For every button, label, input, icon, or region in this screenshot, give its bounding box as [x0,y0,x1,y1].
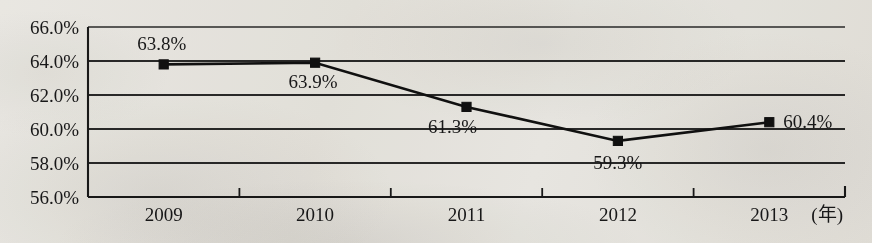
gridline-group [88,27,845,163]
y-axis-tick-label: 58.0% [30,153,79,174]
data-point-label: 63.8% [137,33,186,54]
data-point-marker [613,136,622,145]
x-axis-tick-label: 2012 [599,204,637,225]
y-axis-tick-label: 60.0% [30,119,79,140]
x-axis-tick-label: 2013 [750,204,788,225]
data-point-label: 63.9% [289,71,338,92]
data-point-marker [311,58,320,67]
y-axis-label-group: 56.0%58.0%60.0%62.0%64.0%66.0% [30,17,79,208]
data-point-label: 60.4% [783,111,832,132]
chart-canvas: 56.0%58.0%60.0%62.0%64.0%66.0% 200920102… [0,0,872,243]
data-point-marker [462,102,471,111]
data-point-marker [159,60,168,69]
data-point-marker [765,118,774,127]
x-axis-tick-label: 2011 [448,204,485,225]
data-point-label: 59.3% [593,152,642,173]
x-axis-unit-label: (年) [811,204,843,226]
line-chart: 56.0%58.0%60.0%62.0%64.0%66.0% 200920102… [0,0,872,243]
x-axis-label-group: 20092010201120122013 [145,204,789,225]
axis-unit-group: (年) [811,204,843,226]
data-label-group: 63.8%63.9%61.3%59.3%60.4% [137,33,832,173]
y-axis-tick-label: 64.0% [30,51,79,72]
y-axis-tick-label: 56.0% [30,187,79,208]
y-axis-tick-label: 66.0% [30,17,79,38]
x-axis-tick-group [239,188,693,197]
x-axis-tick-label: 2010 [296,204,334,225]
y-axis-tick-label: 62.0% [30,85,79,106]
data-point-label: 61.3% [428,116,477,137]
x-axis-tick-label: 2009 [145,204,183,225]
